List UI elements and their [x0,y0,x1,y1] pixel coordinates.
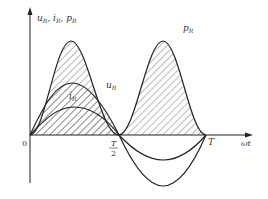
p-r-label: pR [183,23,194,34]
u-r-label: uR [106,80,117,91]
x-axis-arrow-icon [245,133,253,138]
waveform-diagram: uR, iR, pR pR uR iR 0 T 2 T ωt [0,0,268,199]
tick-half-numerator: T [111,139,117,148]
y-axis-arrow-icon [28,7,33,15]
origin-label: 0 [22,139,27,148]
y-axis-label: uR, iR, pR [37,13,77,24]
x-axis-label: ωt [241,139,252,148]
tick-half-denominator: 2 [111,149,116,158]
tick-full-label: T [208,137,215,147]
